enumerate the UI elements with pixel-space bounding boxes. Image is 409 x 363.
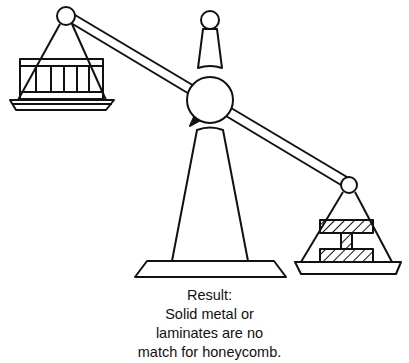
right-pivot-circle [341, 177, 357, 193]
solid-metal-i-beam [301, 192, 392, 262]
caption-line-2: Solid metal or [10, 305, 409, 324]
caption-line-1: Result: [10, 286, 409, 305]
right-tray [295, 262, 401, 274]
top-knob [198, 11, 222, 68]
left-tray [10, 100, 114, 110]
caption-line-4: match for honeycomb. [10, 343, 409, 362]
left-pivot-circle [57, 7, 75, 25]
result-caption: Result: Solid metal or laminates are no … [0, 286, 409, 362]
scale-base [135, 261, 286, 277]
scale-tower [172, 128, 248, 262]
caption-line-3: laminates are no [10, 324, 409, 343]
pivot-circle [187, 77, 233, 126]
